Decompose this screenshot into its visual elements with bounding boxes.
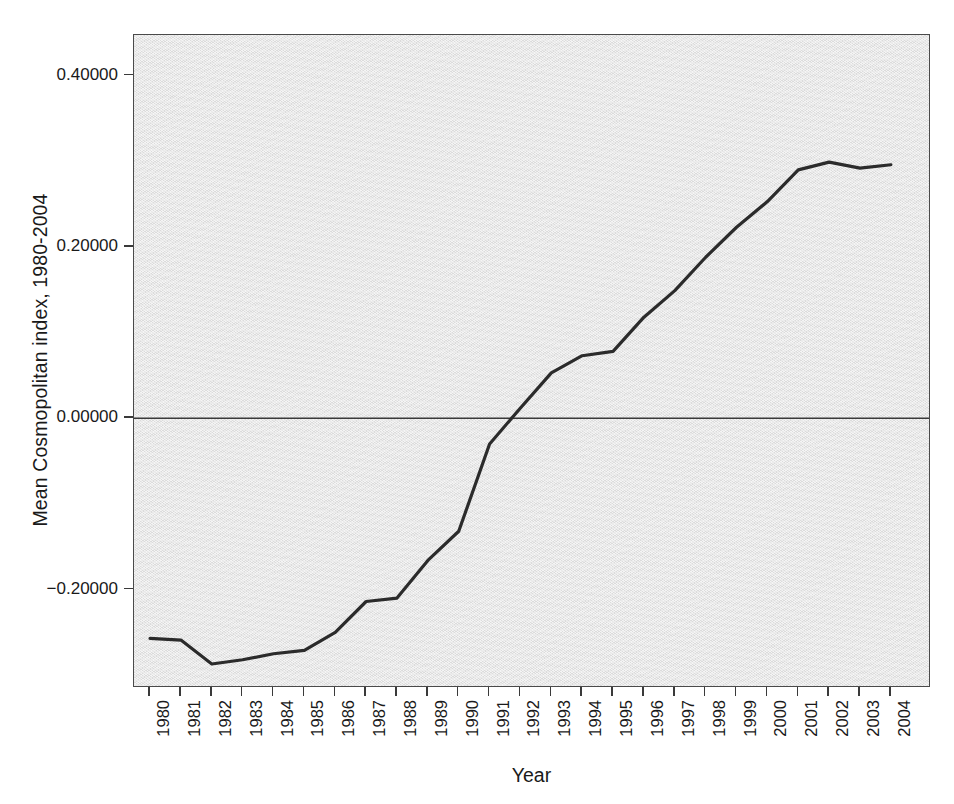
x-axis-tick-mark <box>797 687 799 696</box>
x-axis-tick-mark <box>673 687 675 696</box>
x-axis-tick-mark <box>642 687 644 696</box>
x-axis-tick-label: 1992 <box>525 700 542 737</box>
x-axis-tick-mark <box>858 687 860 696</box>
x-axis-tick-label: 1987 <box>371 700 388 737</box>
x-axis-tick-mark <box>303 687 305 696</box>
x-axis-tick-label: 1996 <box>649 700 666 737</box>
x-axis-tick-mark <box>889 687 891 696</box>
x-axis-tick-label: 1995 <box>618 700 635 737</box>
y-axis-tick-mark <box>124 416 133 418</box>
data-line-svg <box>134 35 930 687</box>
y-axis-tick-label: 0.40000 <box>6 66 118 83</box>
x-axis-tick-mark <box>272 687 274 696</box>
x-axis-tick-label: 2002 <box>834 700 851 737</box>
x-axis-tick-mark <box>827 687 829 696</box>
plot-area <box>133 34 930 687</box>
x-axis-tick-label: 1998 <box>711 700 728 737</box>
x-axis-tick-label: 1989 <box>433 700 450 737</box>
y-axis-tick-mark <box>124 245 133 247</box>
x-axis-tick-mark <box>704 687 706 696</box>
x-axis-tick-mark <box>735 687 737 696</box>
x-axis-tick-mark <box>179 687 181 696</box>
x-axis-tick-label: 1983 <box>248 700 265 737</box>
x-axis-tick-mark <box>580 687 582 696</box>
y-axis-tick-labels: 0.400000.200000.00000−0.20000 <box>0 0 118 804</box>
x-axis-tick-label: 1986 <box>340 700 357 737</box>
y-axis-tick-label: −0.20000 <box>6 580 118 597</box>
x-axis-tick-label: 1985 <box>309 700 326 737</box>
x-axis-tick-label: 2001 <box>803 700 820 737</box>
x-axis-tick-mark <box>488 687 490 696</box>
x-axis-tick-mark <box>395 687 397 696</box>
x-axis-tick-label: 2000 <box>772 700 789 737</box>
x-axis-tick-mark <box>241 687 243 696</box>
y-axis-tick-label: 0.00000 <box>6 408 118 425</box>
y-axis-tick-label: 0.20000 <box>6 237 118 254</box>
x-axis-tick-mark <box>426 687 428 696</box>
x-axis-tick-mark <box>550 687 552 696</box>
x-axis-tick-label: 2003 <box>865 700 882 737</box>
x-axis-tick-label: 1997 <box>680 700 697 737</box>
x-axis-tick-label: 1984 <box>279 700 296 737</box>
x-axis-tick-mark <box>148 687 150 696</box>
x-axis-tick-mark <box>457 687 459 696</box>
x-axis-title: Year <box>133 764 930 787</box>
y-axis-tick-mark <box>124 588 133 590</box>
x-axis-tick-label: 1990 <box>464 700 481 737</box>
x-axis-tick-mark <box>611 687 613 696</box>
x-axis-tick-label: 1999 <box>742 700 759 737</box>
x-axis-tick-label: 1980 <box>155 700 172 737</box>
x-axis-tick-mark <box>766 687 768 696</box>
x-axis-tick-label: 2004 <box>896 700 913 737</box>
x-axis-tick-label: 1994 <box>587 700 604 737</box>
x-axis-tick-label: 1991 <box>495 700 512 737</box>
x-axis-tick-mark <box>364 687 366 696</box>
x-axis-tick-label: 1981 <box>186 700 203 737</box>
x-axis-tick-mark <box>334 687 336 696</box>
x-axis-tick-label: 1988 <box>402 700 419 737</box>
x-axis-tick-label: 1993 <box>556 700 573 737</box>
x-axis-tick-mark <box>519 687 521 696</box>
y-axis-tick-mark <box>124 74 133 76</box>
x-axis-tick-label: 1982 <box>217 700 234 737</box>
chart-figure: Mean Cosmopolitan index, 1980-2004 0.400… <box>0 0 954 804</box>
x-axis-tick-mark <box>210 687 212 696</box>
cosmopolitan-index-line <box>150 162 891 664</box>
